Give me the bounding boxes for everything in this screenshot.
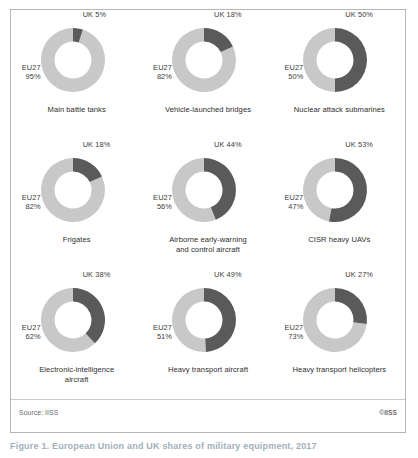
donut-graphic [168, 24, 240, 96]
source-label: Source: IISS [19, 409, 58, 416]
uk-share-label: UK 18% [83, 140, 111, 149]
chart-caption: CISR heavy UAVs [274, 235, 405, 245]
eu-share-percent: 73% [284, 332, 303, 341]
eu-share-label: EU2750% [284, 63, 303, 82]
eu-share-label: EU2747% [284, 193, 303, 212]
chart-caption: Nuclear attack submarines [274, 105, 405, 115]
eu-share-name: EU27 [284, 63, 303, 72]
panel-footer: Source: IISS ©IISS [11, 399, 405, 432]
eu-share-name: EU27 [153, 323, 172, 332]
chart-caption-line: Nuclear attack submarines [278, 105, 401, 115]
donut-chart: UK 27%EU2773%Heavy transport helicopters [274, 270, 405, 400]
donut-chart: UK 18%EU2782%Frigates [11, 140, 142, 270]
donut-graphic [37, 24, 109, 96]
donut-graphic [299, 284, 371, 356]
uk-share-label: UK 53% [345, 140, 373, 149]
figure-panel: UK 5%EU2795%Main battle tanksUK 18%EU278… [10, 9, 406, 433]
donut-chart: UK 49%EU2751%Heavy transport aircraft [142, 270, 273, 400]
uk-share-label: UK 5% [83, 10, 107, 19]
chart-caption: Main battle tanks [11, 105, 142, 115]
eu-share-name: EU27 [153, 63, 172, 72]
eu-segment [303, 158, 335, 221]
eu-share-name: EU27 [153, 193, 172, 202]
chart-caption-line: CISR heavy UAVs [278, 235, 401, 245]
donut-graphic [37, 284, 109, 356]
eu-share-percent: 50% [284, 72, 303, 81]
chart-caption: Frigates [11, 235, 142, 245]
donut-chart-grid: UK 5%EU2795%Main battle tanksUK 18%EU278… [11, 10, 405, 400]
donut-graphic [299, 24, 371, 96]
chart-caption: Electronic-intelligenceaircraft [11, 365, 142, 385]
eu-share-percent: 47% [284, 202, 303, 211]
uk-share-label: UK 27% [345, 270, 373, 279]
chart-caption-line: Airborne early-warning [146, 235, 269, 245]
chart-caption-line: Frigates [15, 235, 138, 245]
eu-share-label: EU2756% [153, 193, 172, 212]
donut-chart: UK 18%EU2782%Vehicle-launched bridges [142, 10, 273, 140]
uk-segment [73, 288, 105, 343]
eu-segment [41, 28, 105, 92]
uk-segment [335, 28, 367, 92]
eu-share-name: EU27 [22, 193, 41, 202]
chart-caption-line: aircraft [15, 375, 138, 385]
eu-share-label: EU2795% [22, 63, 41, 82]
eu-share-label: EU2782% [153, 63, 172, 82]
chart-caption: Vehicle-launched bridges [142, 105, 273, 115]
eu-share-percent: 82% [22, 202, 41, 211]
donut-graphic [299, 154, 371, 226]
donut-chart: UK 53%EU2747%CISR heavy UAVs [274, 140, 405, 270]
eu-share-name: EU27 [284, 323, 303, 332]
eu-share-percent: 56% [153, 202, 172, 211]
donut-chart: UK 44%EU2756%Airborne early-warningand c… [142, 140, 273, 270]
donut-graphic [168, 284, 240, 356]
eu-share-percent: 51% [153, 332, 172, 341]
eu-share-percent: 62% [22, 332, 41, 341]
chart-caption: Heavy transport aircraft [142, 365, 273, 375]
chart-caption-line: Heavy transport helicopters [278, 365, 401, 375]
chart-caption-line: Electronic-intelligence [15, 365, 138, 375]
chart-caption-line: Main battle tanks [15, 105, 138, 115]
eu-share-name: EU27 [22, 63, 41, 72]
donut-chart: UK 38%EU2762%Electronic-intelligenceairc… [11, 270, 142, 400]
uk-segment [335, 288, 367, 324]
chart-caption: Heavy transport helicopters [274, 365, 405, 375]
uk-share-label: UK 50% [345, 10, 373, 19]
uk-share-label: UK 44% [214, 140, 242, 149]
eu-share-label: EU2773% [284, 323, 303, 342]
eu-share-label: EU2762% [22, 323, 41, 342]
figure-caption: Figure 1. European Union and UK shares o… [10, 441, 408, 458]
uk-share-label: UK 18% [214, 10, 242, 19]
eu-share-percent: 82% [153, 72, 172, 81]
uk-share-label: UK 38% [83, 270, 111, 279]
eu-share-percent: 95% [22, 72, 41, 81]
uk-share-label: UK 49% [214, 270, 242, 279]
chart-caption: Airborne early-warningand control aircra… [142, 235, 273, 255]
eu-share-label: EU2751% [153, 323, 172, 342]
eu-share-label: EU2782% [22, 193, 41, 212]
chart-caption-line: Heavy transport aircraft [146, 365, 269, 375]
uk-segment [204, 288, 236, 352]
donut-chart: UK 5%EU2795%Main battle tanks [11, 10, 142, 140]
eu-segment [303, 28, 335, 92]
copyright-label: ©IISS [379, 409, 397, 416]
chart-caption-line: Vehicle-launched bridges [146, 105, 269, 115]
chart-caption-line: and control aircraft [146, 245, 269, 255]
donut-graphic [168, 154, 240, 226]
donut-chart: UK 50%EU2750%Nuclear attack submarines [274, 10, 405, 140]
donut-graphic [37, 154, 109, 226]
eu-segment [172, 288, 206, 352]
eu-share-name: EU27 [22, 323, 41, 332]
eu-share-name: EU27 [284, 193, 303, 202]
